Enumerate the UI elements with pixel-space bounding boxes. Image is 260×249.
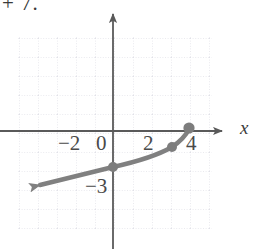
x-tick-label-four: 4 — [186, 133, 197, 154]
plot-point — [167, 142, 177, 152]
grid-lines — [18, 36, 212, 230]
graph-screenshot: + 7. — [0, 0, 260, 249]
x-tick-label-two: 2 — [143, 133, 154, 154]
x-tick-label-neg2: −2 — [58, 133, 80, 154]
plot-point — [108, 162, 118, 172]
plot-svg — [0, 0, 260, 249]
x-axis-name-label: x — [240, 118, 248, 137]
x-tick-label-zero: 0 — [96, 133, 107, 154]
y-tick-label-neg3: −3 — [85, 176, 107, 197]
coordinate-plot — [0, 0, 260, 249]
